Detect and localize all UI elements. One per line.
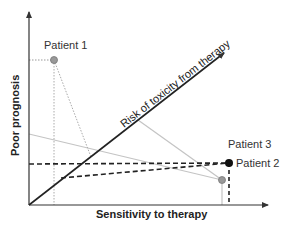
- patient-3-label: Patient 3: [228, 138, 271, 150]
- patient-2-label: Patient 2: [236, 157, 279, 169]
- patient-3-point[interactable]: [219, 177, 226, 184]
- patient-1-guides: [29, 60, 91, 205]
- patient-2-guides: [29, 163, 229, 205]
- x-axis-title: Sensitivity to therapy: [96, 208, 208, 220]
- patient-1-label: Patient 1: [44, 39, 87, 51]
- toxicity-diagonal-arrow: [29, 53, 224, 205]
- patient-3-to-diagonal-line: [138, 120, 222, 180]
- patient-2-point[interactable]: [225, 159, 233, 167]
- patient-3-to-y-axis-line: [29, 134, 222, 180]
- y-axis-title: Poor prognosis: [9, 75, 21, 156]
- prognosis-sensitivity-diagram: Risk of toxicity from therapy Patient 1 …: [0, 0, 292, 231]
- patient-1-to-diagonal-line: [54, 60, 91, 157]
- patient-1-point[interactable]: [51, 57, 58, 64]
- diagonal-label: Risk of toxicity from therapy: [118, 37, 232, 130]
- patient-2-to-y-axis-line: [29, 163, 229, 164]
